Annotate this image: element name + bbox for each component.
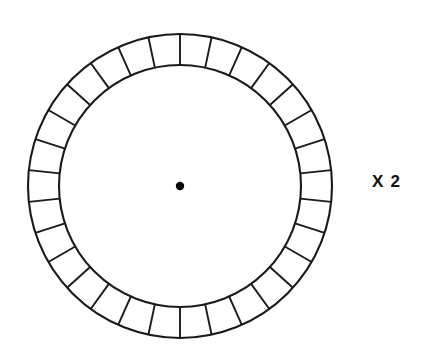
spoke-line xyxy=(295,223,324,233)
figure-root: X 2 xyxy=(0,0,428,362)
spoke-line xyxy=(205,37,211,67)
spoke-line xyxy=(148,37,154,67)
spoke-line xyxy=(118,47,131,75)
spoke-line xyxy=(229,47,242,75)
spoke-line xyxy=(29,170,60,173)
spoke-line xyxy=(251,63,269,88)
spoke-line xyxy=(35,139,64,149)
spoke-line xyxy=(285,110,312,126)
spoke-line xyxy=(300,170,331,173)
spoke-line xyxy=(67,84,90,105)
spoke-line xyxy=(205,304,211,334)
spoke-line xyxy=(91,284,109,309)
spoke-line xyxy=(295,139,324,149)
spoke-line xyxy=(229,297,242,325)
spoke-line xyxy=(148,304,154,334)
spoke-line xyxy=(285,247,312,263)
spoke-line xyxy=(67,267,90,288)
spoke-line xyxy=(91,63,109,88)
spoke-line xyxy=(48,247,75,263)
center-dot xyxy=(176,182,184,190)
spoke-line xyxy=(270,267,293,288)
spoke-line xyxy=(251,284,269,309)
spoke-line xyxy=(48,110,75,126)
spoke-line xyxy=(300,199,331,202)
spoke-line xyxy=(118,297,131,325)
spoke-line xyxy=(35,223,64,233)
spoke-line xyxy=(270,84,293,105)
wheel-diagram xyxy=(0,0,428,362)
multiplier-label: X 2 xyxy=(372,172,401,192)
spoke-line xyxy=(29,199,60,202)
